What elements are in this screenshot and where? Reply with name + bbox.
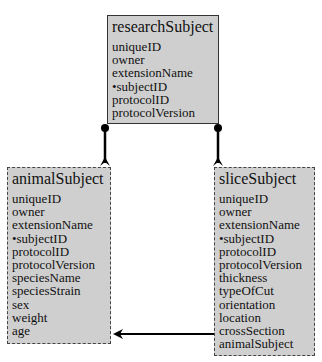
arrowhead-icon: [100, 157, 110, 166]
inheritance-connector-slice: [213, 124, 223, 166]
reference-connector: [113, 329, 214, 339]
connector-layer: [0, 0, 322, 362]
inheritance-connector-animal: [100, 124, 110, 166]
arrowhead-icon: [213, 157, 223, 166]
